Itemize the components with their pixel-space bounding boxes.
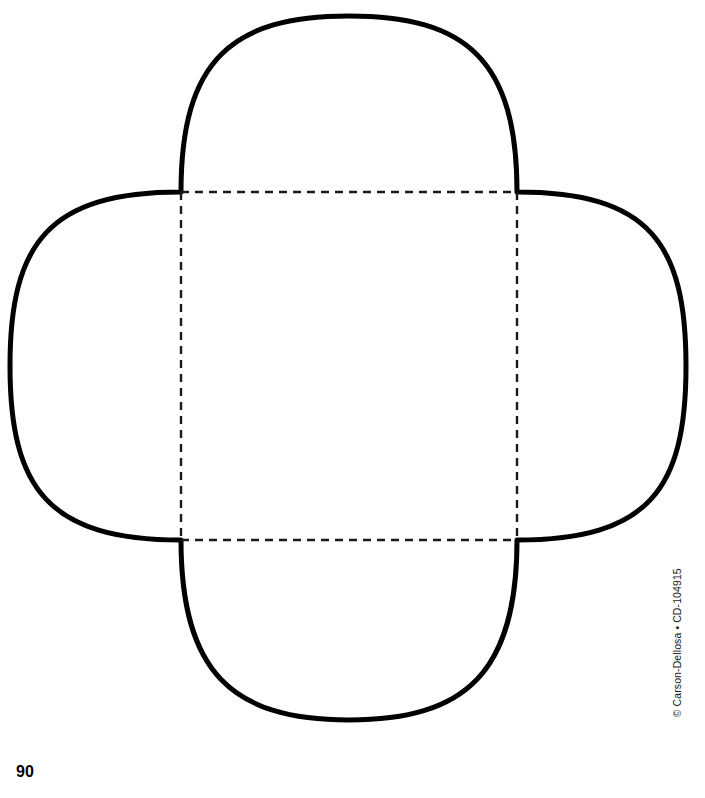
quatrefoil-box-template-graphic (0, 0, 705, 798)
copyright-notice: © Carson-Dellosa • CD-104915 (672, 537, 683, 717)
petal-outline-path (10, 16, 686, 720)
page-number: 90 (16, 764, 34, 780)
worksheet-page: 90 © Carson-Dellosa • CD-104915 (0, 0, 705, 798)
